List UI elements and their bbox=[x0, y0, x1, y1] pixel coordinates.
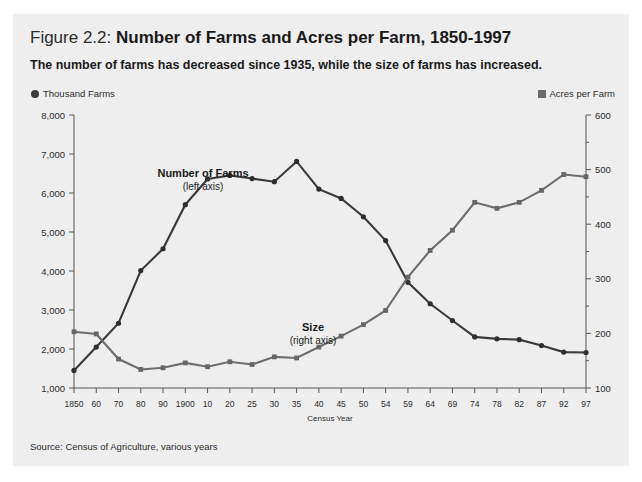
plot-area: 1,0002,0003,0004,0005,0006,0007,0008,000… bbox=[13, 14, 629, 466]
data-point bbox=[539, 188, 544, 193]
data-point bbox=[561, 172, 566, 177]
y-left-tick-label: 2,000 bbox=[41, 344, 65, 355]
data-point bbox=[227, 359, 232, 364]
data-point bbox=[561, 350, 566, 355]
data-point bbox=[183, 202, 188, 207]
x-tick-label: 20 bbox=[225, 399, 235, 409]
data-point bbox=[138, 367, 143, 372]
x-tick-label: 1850 bbox=[65, 399, 84, 409]
data-point bbox=[294, 159, 299, 164]
data-point bbox=[161, 365, 166, 370]
x-tick-label: 50 bbox=[359, 399, 369, 409]
data-point bbox=[72, 329, 77, 334]
x-tick-label: 64 bbox=[425, 399, 435, 409]
data-point bbox=[472, 334, 477, 339]
x-tick-label: 82 bbox=[514, 399, 524, 409]
data-point bbox=[450, 318, 455, 323]
x-tick-label: 90 bbox=[158, 399, 168, 409]
y-right-tick-label: 100 bbox=[595, 383, 611, 394]
y-left-tick-label: 1,000 bbox=[41, 383, 65, 394]
x-tick-label: 87 bbox=[537, 399, 547, 409]
data-point bbox=[450, 228, 455, 233]
source-note: Source: Census of Agriculture, various y… bbox=[30, 441, 217, 452]
x-tick-label: 78 bbox=[492, 399, 502, 409]
data-point bbox=[406, 275, 411, 280]
data-point bbox=[272, 179, 277, 184]
figure-panel: Figure 2.2: Number of Farms and Acres pe… bbox=[13, 14, 629, 466]
series-annotation-farms: Number of Farms bbox=[157, 167, 248, 179]
data-point bbox=[339, 196, 344, 201]
x-tick-label: 10 bbox=[203, 399, 213, 409]
y-right-tick-label: 300 bbox=[595, 273, 611, 284]
data-point bbox=[584, 174, 589, 179]
data-point bbox=[361, 322, 366, 327]
data-point bbox=[160, 246, 165, 251]
data-point bbox=[383, 238, 388, 243]
data-point bbox=[383, 308, 388, 313]
data-point bbox=[294, 356, 299, 361]
data-point bbox=[539, 343, 544, 348]
data-point bbox=[494, 336, 499, 341]
x-axis-title: Census Year bbox=[307, 414, 353, 423]
data-point bbox=[94, 344, 99, 349]
y-left-tick-label: 3,000 bbox=[41, 305, 65, 316]
series-annotation-size: Size bbox=[302, 321, 324, 333]
x-tick-label: 1900 bbox=[176, 399, 195, 409]
data-point bbox=[428, 248, 433, 253]
x-tick-label: 30 bbox=[270, 399, 280, 409]
chart-svg: 1,0002,0003,0004,0005,0006,0007,0008,000… bbox=[13, 14, 629, 466]
x-tick-label: 60 bbox=[92, 399, 102, 409]
series-annotation-farms-axis: (left axis) bbox=[183, 181, 224, 192]
data-point bbox=[138, 268, 143, 273]
series-annotation-size-axis: (right axis) bbox=[290, 335, 337, 346]
x-tick-label: 97 bbox=[581, 399, 591, 409]
y-right-tick-label: 400 bbox=[595, 219, 611, 230]
y-left-tick-label: 5,000 bbox=[41, 227, 65, 238]
data-point bbox=[116, 357, 121, 362]
y-left-tick-label: 7,000 bbox=[41, 149, 65, 160]
y-left-tick-label: 6,000 bbox=[41, 188, 65, 199]
data-point bbox=[339, 334, 344, 339]
x-tick-label: 40 bbox=[314, 399, 324, 409]
data-point bbox=[249, 176, 254, 181]
data-point bbox=[517, 337, 522, 342]
y-right-tick-label: 500 bbox=[595, 164, 611, 175]
data-point bbox=[428, 301, 433, 306]
x-tick-label: 25 bbox=[247, 399, 257, 409]
data-point bbox=[272, 354, 277, 359]
data-point bbox=[517, 200, 522, 205]
data-point bbox=[205, 364, 210, 369]
x-tick-label: 70 bbox=[114, 399, 124, 409]
data-point bbox=[472, 200, 477, 205]
data-point bbox=[361, 214, 366, 219]
x-tick-label: 92 bbox=[559, 399, 569, 409]
x-tick-label: 54 bbox=[381, 399, 391, 409]
data-point bbox=[316, 187, 321, 192]
data-point bbox=[94, 332, 99, 337]
y-right-tick-label: 600 bbox=[595, 110, 611, 121]
data-point bbox=[495, 206, 500, 211]
data-point bbox=[71, 368, 76, 373]
data-point bbox=[116, 321, 121, 326]
data-point bbox=[183, 360, 188, 365]
y-left-tick-label: 8,000 bbox=[41, 110, 65, 121]
x-tick-label: 59 bbox=[403, 399, 413, 409]
x-tick-label: 80 bbox=[136, 399, 146, 409]
data-point bbox=[250, 362, 255, 367]
y-left-tick-label: 4,000 bbox=[41, 266, 65, 277]
x-tick-label: 45 bbox=[336, 399, 346, 409]
x-tick-label: 35 bbox=[292, 399, 302, 409]
y-right-tick-label: 200 bbox=[595, 328, 611, 339]
x-tick-label: 69 bbox=[448, 399, 458, 409]
x-tick-label: 74 bbox=[470, 399, 480, 409]
data-point bbox=[583, 350, 588, 355]
